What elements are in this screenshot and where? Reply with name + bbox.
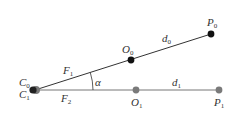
- point-p0: [208, 31, 215, 38]
- label-f2: F2: [60, 92, 72, 106]
- label-p0: P0: [206, 16, 218, 30]
- point-o1: [133, 87, 140, 94]
- label-p1: P1: [213, 96, 225, 110]
- point-p1: [216, 87, 223, 94]
- label-o1: O1: [131, 96, 143, 110]
- geometry-diagram: C0 C1 F1 F2 α d0 d1 O0 O1 P0 P1: [0, 0, 237, 126]
- label-d0: d0: [162, 32, 172, 46]
- label-o0: O0: [122, 43, 134, 57]
- point-o0: [128, 57, 135, 64]
- label-alpha: α: [95, 76, 101, 88]
- label-d1: d1: [172, 76, 182, 90]
- angle-alpha-arc: [90, 73, 93, 91]
- point-c0: [29, 86, 36, 93]
- label-f1: F1: [62, 64, 74, 78]
- label-c1: C1: [19, 88, 30, 102]
